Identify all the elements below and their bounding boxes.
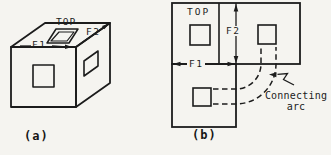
annotation-arrowhead: [269, 72, 277, 77]
panel-a-caption: (a): [24, 129, 49, 143]
f1-face-outline: [172, 64, 236, 127]
box-front-face: [11, 47, 76, 107]
figure-unfolding-diagram: TOP F1 F2 (a) TOP F1 F2 Connecting arc (…: [0, 0, 331, 155]
annotation-leader: [269, 72, 294, 85]
f1-arrow-right: [228, 62, 236, 67]
f2-arrow-down: [234, 56, 239, 64]
connecting-arc-annotation-line2: arc: [261, 101, 331, 112]
top-face-hole-b: [190, 25, 210, 45]
panel-b-f1-label: F1: [187, 59, 205, 69]
annotation-zigzag-line: [278, 74, 295, 86]
f2-face-hole-b: [258, 25, 276, 44]
f1-leader-arrowhead: [65, 45, 72, 49]
panel-a-f1-label: F1: [32, 40, 46, 50]
diagram-lineart: [0, 0, 331, 155]
f2-arrow-up: [234, 4, 239, 12]
panel-b-caption: (b): [192, 128, 217, 142]
f1-face-hole-b: [193, 88, 211, 106]
f1-leader-line: [52, 46, 66, 47]
panel-b-top-label: TOP: [187, 7, 210, 17]
panel-b-f2-label: F2: [224, 26, 242, 36]
connecting-arc-annotation: Connecting arc: [261, 90, 331, 112]
connecting-arc-annotation-line1: Connecting: [261, 90, 331, 101]
f1-arrow-left: [173, 62, 181, 67]
connecting-arc-inner: [213, 47, 261, 89]
right-face-hole: [84, 51, 98, 76]
panel-a-top-label: TOP: [56, 17, 76, 27]
panel-a-f2-label: F2: [86, 27, 100, 37]
front-face-hole: [33, 65, 54, 87]
